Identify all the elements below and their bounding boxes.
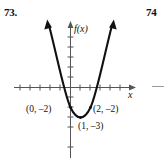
point-marker-left-intercept <box>69 106 72 109</box>
point-label-left-intercept: (0, –2) <box>26 105 51 115</box>
point-label-right-intercept: (2, –2) <box>93 105 118 115</box>
x-axis-label: x <box>128 90 132 100</box>
point-label-vertex: (1, –3) <box>78 122 103 132</box>
y-axis-label: f(x) <box>74 24 88 34</box>
figure-panel: 73. 74 <box>0 0 164 164</box>
y-axis-arrow-icon <box>68 21 74 28</box>
point-marker-right-intercept <box>89 106 92 109</box>
point-marker-vertex <box>79 116 82 119</box>
